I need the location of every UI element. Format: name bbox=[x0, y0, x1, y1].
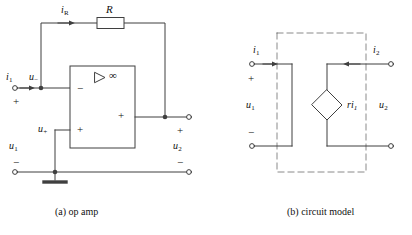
sign-input-minus-a: − bbox=[13, 157, 19, 168]
label-infinity-gain: ∞ bbox=[109, 70, 117, 81]
node-dot-inverting bbox=[39, 86, 44, 91]
resistor-R-body bbox=[97, 18, 124, 29]
terminal-input-bottom-b bbox=[250, 144, 255, 149]
terminal-input-top-b bbox=[250, 62, 255, 67]
sign-input-plus-b: + bbox=[248, 73, 254, 84]
label-dependent-source-ri1: ri1 bbox=[347, 100, 357, 112]
terminal-output-top-a bbox=[187, 115, 192, 120]
label-iR: iR bbox=[61, 5, 69, 17]
label-u1-b: u1 bbox=[246, 100, 255, 112]
figure-canvas: iR R i1 u− + u+ u1 − − + + ∞ + u2 − i1 +… bbox=[0, 0, 412, 235]
terminal-input-top-a bbox=[13, 86, 18, 91]
label-resistor-R: R bbox=[106, 4, 113, 15]
label-i1-a: i1 bbox=[6, 72, 12, 84]
label-u-minus: u− bbox=[29, 72, 38, 84]
caption-panel-b: (b) circuit model bbox=[287, 207, 354, 217]
sign-input-plus-a: + bbox=[13, 96, 19, 107]
sign-input-minus-b: − bbox=[248, 127, 254, 138]
sign-opamp-noninverting: + bbox=[77, 124, 83, 135]
terminal-output-bottom-a bbox=[187, 170, 192, 175]
label-i1-b: i1 bbox=[253, 45, 259, 57]
label-u2-a: u2 bbox=[173, 141, 182, 153]
terminal-output-bottom-b bbox=[389, 144, 394, 149]
caption-panel-a: (a) op amp bbox=[55, 207, 98, 217]
label-i2: i2 bbox=[373, 45, 379, 57]
label-u1-a: u1 bbox=[9, 141, 18, 153]
node-dot-output bbox=[163, 115, 168, 120]
terminal-input-bottom-a bbox=[13, 170, 18, 175]
label-u2-b: u2 bbox=[379, 100, 388, 112]
label-u-plus: u+ bbox=[38, 124, 47, 136]
sign-opamp-inverting: − bbox=[77, 83, 83, 94]
circuit-diagram-svg bbox=[0, 0, 412, 235]
sign-output-plus-a: + bbox=[177, 125, 183, 136]
terminal-output-top-b bbox=[389, 62, 394, 67]
sign-output-minus-a: − bbox=[177, 157, 183, 168]
sign-opamp-output: + bbox=[118, 110, 124, 121]
node-dot-ground bbox=[53, 170, 58, 175]
dependent-voltage-source-diamond bbox=[312, 90, 342, 120]
